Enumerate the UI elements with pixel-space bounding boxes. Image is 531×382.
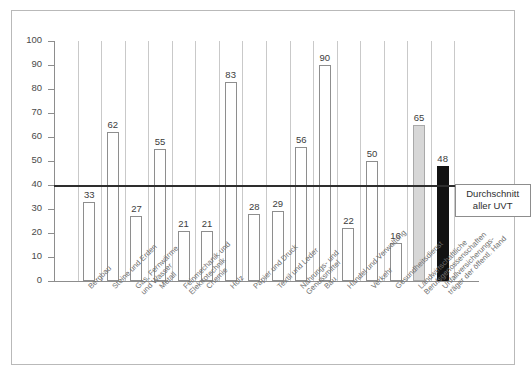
annotation-line-1: Durchschnitt xyxy=(461,188,525,200)
reference-line xyxy=(54,185,469,187)
bar xyxy=(248,214,260,281)
bar xyxy=(83,202,95,281)
bar xyxy=(319,65,331,281)
y-tick-label: 30 xyxy=(14,203,42,213)
reference-line-annotation: Durchschnitt aller UVT xyxy=(455,184,531,217)
bar-value-label: 62 xyxy=(99,120,127,130)
y-tick-label: 10 xyxy=(14,251,42,261)
chart-frame: 1009080706050403020100 33622755212183282… xyxy=(11,10,515,365)
plot-area xyxy=(54,41,478,281)
y-tick-label: 70 xyxy=(14,107,42,117)
bar-value-label: 33 xyxy=(75,190,103,200)
bar-value-label: 29 xyxy=(264,199,292,209)
bar-value-label: 22 xyxy=(334,216,362,226)
bar-value-label: 48 xyxy=(429,154,457,164)
bar-value-label: 90 xyxy=(311,53,339,63)
category-gridline xyxy=(407,41,408,281)
y-tick-label: 80 xyxy=(14,83,42,93)
bar-value-label: 55 xyxy=(146,137,174,147)
category-gridline xyxy=(195,41,196,281)
category-gridline xyxy=(360,41,361,281)
category-gridline xyxy=(266,41,267,281)
annotation-line-2: aller UVT xyxy=(461,200,525,212)
y-tick-label: 60 xyxy=(14,131,42,141)
bar-value-label: 56 xyxy=(287,135,315,145)
y-tick-label: 100 xyxy=(14,35,42,45)
category-gridline xyxy=(337,41,338,281)
y-tick-label: 40 xyxy=(14,179,42,189)
bar xyxy=(342,228,354,281)
bar xyxy=(107,132,119,281)
category-gridline xyxy=(101,41,102,281)
bar-value-label: 27 xyxy=(122,204,150,214)
bar-value-label: 21 xyxy=(193,219,221,229)
category-gridline xyxy=(125,41,126,281)
y-tick-label: 20 xyxy=(14,227,42,237)
bar-value-label: 65 xyxy=(405,113,433,123)
bar-value-label: 50 xyxy=(358,149,386,159)
y-tick-label: 0 xyxy=(14,275,42,285)
category-gridline xyxy=(78,41,79,281)
y-tick-label: 50 xyxy=(14,155,42,165)
bar-value-label: 83 xyxy=(217,70,245,80)
y-tick-label: 90 xyxy=(14,59,42,69)
